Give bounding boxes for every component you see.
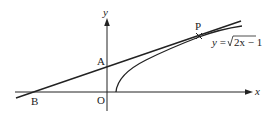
equation-lhs: y = [211,36,226,48]
x-axis-arrow-icon [245,89,253,95]
point-b-label: B [31,95,38,107]
diagram-canvas: y x O B A P y = 2x − 1 [0,0,277,115]
point-a-label: A [97,55,105,67]
y-axis-arrow-icon [104,18,110,26]
tangent-line [16,21,241,98]
point-p-label: P [195,20,201,32]
equation-radicand: 2x − 1 [234,36,262,48]
origin-label: O [97,94,105,106]
curve-equation-label: y = 2x − 1 [211,36,262,48]
x-axis-label: x [254,85,260,97]
y-axis-label: y [102,6,108,18]
